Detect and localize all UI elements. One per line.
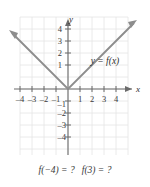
coordinate-plane: –4 –3 –2 –1 1 2 3 4 4 3 2 1 –1 –2 –3 –4 … <box>0 0 150 187</box>
x-tick-label-neg3: –3 <box>27 94 37 104</box>
x-axis-arrow-icon <box>125 86 132 92</box>
y-tick-label-neg4: –4 <box>57 132 67 142</box>
x-tick-label-neg2: –2 <box>39 94 49 104</box>
y-axis-label: y <box>68 14 73 24</box>
y-tick-label-2: 2 <box>58 48 62 58</box>
grid-lines <box>20 17 128 155</box>
figure-absolute-value-graph: –4 –3 –2 –1 1 2 3 4 4 3 2 1 –1 –2 –3 –4 … <box>0 0 150 187</box>
x-tick-label-4: 4 <box>114 94 119 104</box>
x-tick-label-3: 3 <box>102 94 106 104</box>
y-tick-label-3: 3 <box>58 36 62 46</box>
figure-caption: f(−4) = ? f(3) = ? <box>0 165 150 175</box>
y-tick-label-neg3: –3 <box>57 120 67 130</box>
x-tick-label-2: 2 <box>90 94 94 104</box>
x-tick-label-neg4: –4 <box>15 94 25 104</box>
function-label: y = f(x) <box>90 56 120 67</box>
function-curve <box>9 20 137 89</box>
y-tick-label-1: 1 <box>58 60 62 70</box>
x-axis-label: x <box>135 84 140 94</box>
x-tick-label-1: 1 <box>78 94 82 104</box>
y-tick-label-neg2: –2 <box>57 108 67 118</box>
